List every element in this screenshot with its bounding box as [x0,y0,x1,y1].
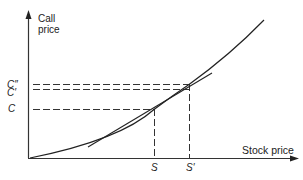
tick-label-c: C [8,103,15,114]
y-axis-label: Call price [38,13,60,35]
tick-label-s: S [151,162,158,173]
y-axis-label-line1: Call [38,13,60,24]
x-axis-label: Stock price [242,145,294,156]
tick-label-s-prime: S′ [186,162,195,173]
y-axis-label-line2: price [38,24,60,35]
tick-label-c-prime: C′ [7,87,16,98]
x-axis-arrow-icon [290,156,299,162]
y-axis-arrow-icon [26,10,32,19]
